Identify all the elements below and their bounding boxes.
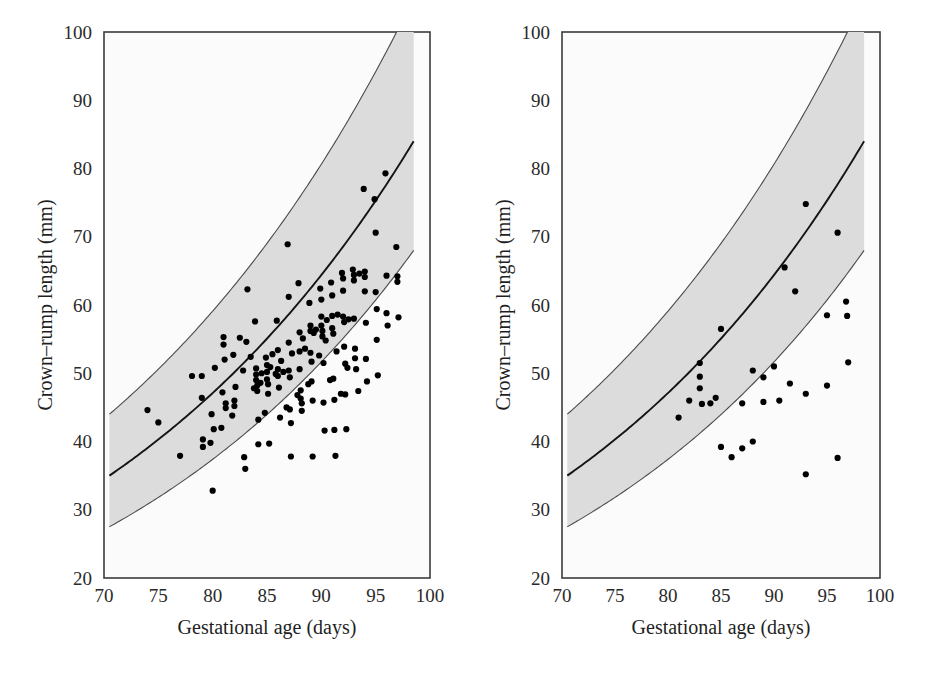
data-point <box>771 363 777 369</box>
chart-svg-right: 2030405060708090100707580859095100Gestat… <box>460 0 923 678</box>
data-point <box>212 365 218 371</box>
data-point <box>697 360 703 366</box>
y-tick-label: 30 <box>531 499 550 520</box>
data-point <box>321 427 327 433</box>
data-point <box>266 440 272 446</box>
chart-panel-right: 2030405060708090100707580859095100Gestat… <box>460 0 923 678</box>
x-axis-title: Gestational age (days) <box>178 616 357 639</box>
data-point <box>199 395 205 401</box>
data-point <box>280 369 286 375</box>
data-point <box>317 286 323 292</box>
data-point <box>341 344 347 350</box>
y-tick-label: 50 <box>73 363 92 384</box>
x-tick-label: 90 <box>765 585 784 606</box>
data-point <box>305 381 311 387</box>
data-point <box>277 415 283 421</box>
data-point <box>229 412 235 418</box>
data-point <box>362 288 368 294</box>
data-point <box>297 366 303 372</box>
data-point <box>327 377 333 383</box>
data-point <box>697 385 703 391</box>
y-axis-title: Crown–rump length (mm) <box>492 199 515 410</box>
data-point <box>295 280 301 286</box>
data-point <box>207 440 213 446</box>
x-tick-label: 85 <box>712 585 731 606</box>
data-point <box>273 371 279 377</box>
data-point <box>739 445 745 451</box>
data-point <box>253 365 259 371</box>
data-point <box>308 359 314 365</box>
data-point <box>333 348 339 354</box>
data-point <box>223 405 229 411</box>
y-tick-label: 100 <box>522 22 551 43</box>
data-point <box>316 352 322 358</box>
data-point <box>302 346 308 352</box>
data-point <box>362 268 368 274</box>
data-point <box>200 444 206 450</box>
x-tick-label: 90 <box>312 585 331 606</box>
data-point <box>294 392 300 398</box>
data-point <box>286 367 292 373</box>
y-tick-label: 20 <box>73 568 92 589</box>
y-tick-label: 60 <box>531 295 550 316</box>
data-point <box>231 397 237 403</box>
data-point <box>255 417 261 423</box>
data-point <box>364 378 370 384</box>
y-tick-label: 60 <box>73 295 92 316</box>
data-point <box>210 488 216 494</box>
data-point <box>382 170 388 176</box>
data-point <box>371 196 377 202</box>
data-point <box>729 454 735 460</box>
data-point <box>297 348 303 354</box>
data-point <box>288 420 294 426</box>
x-tick-label: 80 <box>203 585 222 606</box>
data-point <box>323 337 329 343</box>
x-tick-label: 95 <box>818 585 837 606</box>
data-point <box>144 407 150 413</box>
data-point <box>394 279 400 285</box>
data-point <box>776 397 782 403</box>
y-tick-label: 50 <box>531 363 550 384</box>
data-point <box>363 356 369 362</box>
data-point <box>200 436 206 442</box>
data-point <box>787 380 793 386</box>
data-point <box>220 341 226 347</box>
y-tick-label: 80 <box>73 158 92 179</box>
data-point <box>362 274 368 280</box>
data-point <box>248 354 254 360</box>
data-point <box>318 314 324 320</box>
data-point <box>269 351 275 357</box>
data-point <box>329 325 335 331</box>
data-point <box>320 400 326 406</box>
data-point <box>286 339 292 345</box>
data-point <box>244 286 250 292</box>
data-point <box>707 400 713 406</box>
data-point <box>300 335 306 341</box>
x-tick-label: 70 <box>95 585 114 606</box>
data-point <box>286 294 292 300</box>
data-point <box>355 388 361 394</box>
data-point <box>356 271 362 277</box>
data-point <box>267 364 273 370</box>
data-point <box>394 273 400 279</box>
data-point <box>351 316 357 322</box>
data-point <box>311 330 317 336</box>
data-point <box>344 365 350 371</box>
data-point <box>288 453 294 459</box>
data-point <box>324 317 330 323</box>
data-point <box>218 425 224 431</box>
data-point <box>351 272 357 278</box>
data-point <box>343 426 349 432</box>
x-tick-label: 70 <box>553 585 572 606</box>
data-point <box>395 314 401 320</box>
data-point <box>676 415 682 421</box>
data-point <box>307 322 313 328</box>
y-tick-label: 20 <box>531 568 550 589</box>
data-point <box>835 230 841 236</box>
x-tick-label: 75 <box>606 585 625 606</box>
y-axis-title: Crown–rump length (mm) <box>34 199 57 410</box>
data-point <box>331 427 337 433</box>
data-point <box>363 320 369 326</box>
x-axis-title: Gestational age (days) <box>632 616 811 639</box>
data-point <box>803 391 809 397</box>
